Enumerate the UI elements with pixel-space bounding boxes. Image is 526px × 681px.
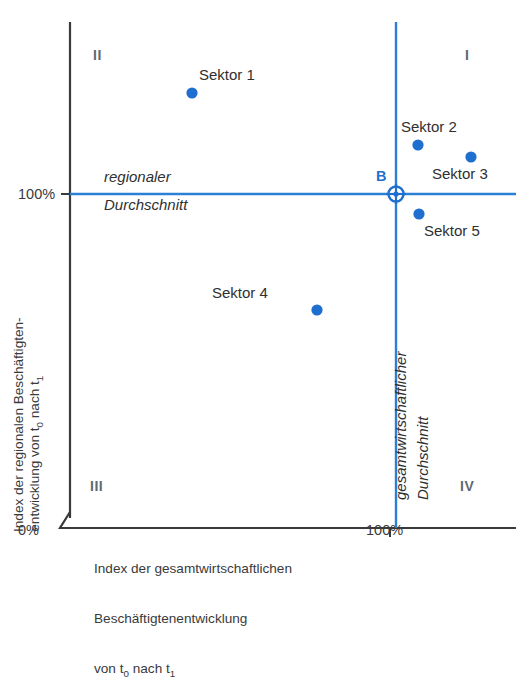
- regional-average-label-bottom: Durchschnitt: [104, 196, 187, 214]
- data-label-sektor-2: Sektor 2: [401, 118, 457, 136]
- data-label-sektor-4: Sektor 4: [212, 284, 268, 302]
- x-axis-title-sub-t1: 1: [170, 667, 175, 678]
- y-axis-title-line-2: entwicklung von t0 nach t1: [27, 376, 45, 532]
- x-axis-title-line-2: Beschäftigtenentwicklung: [94, 611, 292, 628]
- axis-break-mark: [60, 512, 78, 528]
- y-tick-label-100: 100%: [18, 186, 55, 204]
- y-axis-title-line-1: Index der regionalen Beschäftigten-: [11, 317, 26, 532]
- quadrant-label-ii: II: [93, 47, 102, 64]
- y-axis-title-sub-t0: 0: [34, 422, 45, 427]
- x-axis-title-line-3-pre: von t: [94, 661, 123, 676]
- x-axis-title-line-3: von t0 nach t1: [94, 661, 292, 680]
- data-point-sektor-5[interactable]: [413, 208, 424, 219]
- y-axis-title: Index der regionalen Beschäftigten- entw…: [14, 232, 60, 532]
- national-average-label-bottom: Durchschnitt: [414, 417, 432, 500]
- quadrant-label-iv: IV: [460, 478, 474, 495]
- x-axis-title-line-3-mid: nach t: [129, 661, 170, 676]
- y-axis-title-sub-t1: 1: [34, 376, 45, 381]
- y-axis-title-line-2-pre: entwicklung von t: [27, 428, 42, 532]
- data-point-sektor-2[interactable]: [412, 139, 423, 150]
- y-axis-title-line-2-mid: nach t: [27, 381, 42, 422]
- x-axis-title: Index der gesamtwirtschaftlichen Beschäf…: [94, 528, 292, 681]
- data-point-sektor-1[interactable]: [186, 87, 197, 98]
- x-tick-label-100: 100%: [366, 522, 403, 540]
- x-axis-title-line-1: Index der gesamtwirtschaftlichen: [94, 561, 292, 578]
- data-point-sektor-4[interactable]: [311, 304, 322, 315]
- data-label-sektor-5: Sektor 5: [424, 222, 480, 240]
- data-label-sektor-3: Sektor 3: [432, 165, 488, 183]
- quadrant-label-iii: III: [90, 478, 103, 495]
- data-label-sektor-1: Sektor 1: [199, 66, 255, 84]
- regional-average-label-top: regionaler: [104, 168, 171, 186]
- quadrant-label-i: I: [465, 47, 469, 64]
- data-point-sektor-3[interactable]: [465, 151, 476, 162]
- b-marker-label: B: [376, 168, 386, 186]
- national-average-label-top: gesamtwirtschaftlicher: [392, 352, 410, 500]
